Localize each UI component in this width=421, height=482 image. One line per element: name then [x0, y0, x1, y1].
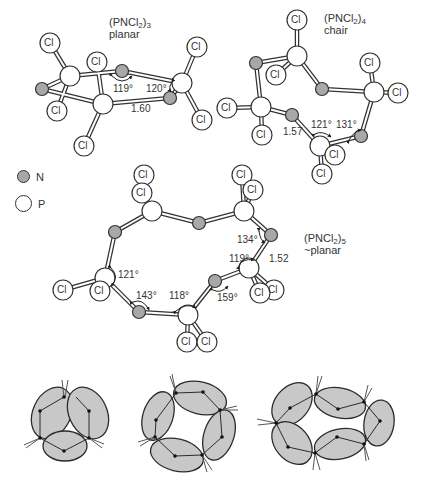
phosphazene-structures-figure: ClClClClClClClClClClClClClClClClClClClCl… — [0, 0, 421, 482]
chlorine-label: Cl — [270, 69, 279, 81]
tetramer-angle-p: 121° — [311, 120, 332, 130]
chlorine-label: Cl — [196, 114, 205, 126]
chlorine-label: Cl — [236, 169, 245, 181]
pentamer-angle-p2: 118° — [169, 291, 189, 301]
chlorine-label: Cl — [221, 102, 230, 114]
chlorine-label: Cl — [91, 56, 100, 68]
chlorine-label: Cl — [136, 187, 145, 199]
chlorine-label: Cl — [256, 129, 265, 141]
chlorine-label: Cl — [51, 105, 60, 117]
pentamer-angle-p1: 121° — [118, 270, 139, 280]
chlorine-label: Cl — [201, 336, 210, 348]
nitrogen-atom-icon — [17, 170, 30, 183]
legend-label-phosphorus: P — [38, 198, 45, 210]
pentamer-angle-p3: 119° — [229, 254, 249, 264]
chlorine-label: Cl — [364, 57, 373, 69]
chlorine-label: Cl — [78, 140, 87, 152]
pentamer-bond-length: 1.52 — [269, 254, 288, 264]
trimer-bond-length: 1.60 — [131, 104, 150, 114]
tetramer-molecule — [217, 10, 408, 184]
chlorine-label: Cl — [94, 285, 103, 297]
legend-phosphorus: P — [15, 195, 45, 212]
pentamer-formula: (PNCl2)5 — [304, 232, 346, 244]
pentamer-angle-n2: 159° — [217, 293, 238, 303]
trimer-angle-p: 120° — [146, 84, 167, 94]
phosphorus-atom-icon — [15, 195, 32, 212]
chlorine-label: Cl — [57, 284, 66, 296]
tetramer-angle-n: 131° — [336, 120, 357, 130]
five-island-schematic — [257, 375, 397, 473]
chlorine-label: Cl — [329, 149, 338, 161]
chlorine-label: Cl — [254, 287, 263, 299]
trimer-angle-n: 119° — [113, 84, 133, 94]
trimer-conformation: planar — [109, 28, 140, 40]
tetramer-bond-length: 1.57 — [283, 127, 302, 137]
chlorine-label: Cl — [181, 336, 190, 348]
tetramer-conformation: chair — [324, 24, 348, 36]
trimer-formula: (PNCl2)3 — [109, 16, 151, 28]
chlorine-label: Cl — [138, 169, 147, 181]
trimer-molecule — [36, 33, 213, 156]
legend-nitrogen: N — [17, 170, 44, 183]
chlorine-label: Cl — [392, 87, 401, 99]
chlorine-label: Cl — [44, 37, 53, 49]
pentamer-conformation: ~planar — [304, 244, 341, 256]
chlorine-label: Cl — [191, 41, 200, 53]
molecule-diagrams — [0, 0, 421, 482]
four-island-schematic — [136, 374, 241, 477]
pentamer-angle-n3: 134° — [237, 235, 258, 245]
legend-label-nitrogen: N — [36, 171, 44, 183]
chlorine-label: Cl — [291, 14, 300, 26]
orbital-schematics — [23, 374, 397, 477]
tetramer-formula: (PNCl2)4 — [324, 12, 366, 24]
trimer-bonds — [42, 43, 202, 146]
chlorine-label: Cl — [316, 168, 325, 180]
chlorine-label: Cl — [247, 184, 256, 196]
three-island-schematic — [23, 380, 116, 461]
chlorine-label: Cl — [268, 284, 277, 296]
pentamer-angle-n1: 143° — [136, 291, 157, 301]
